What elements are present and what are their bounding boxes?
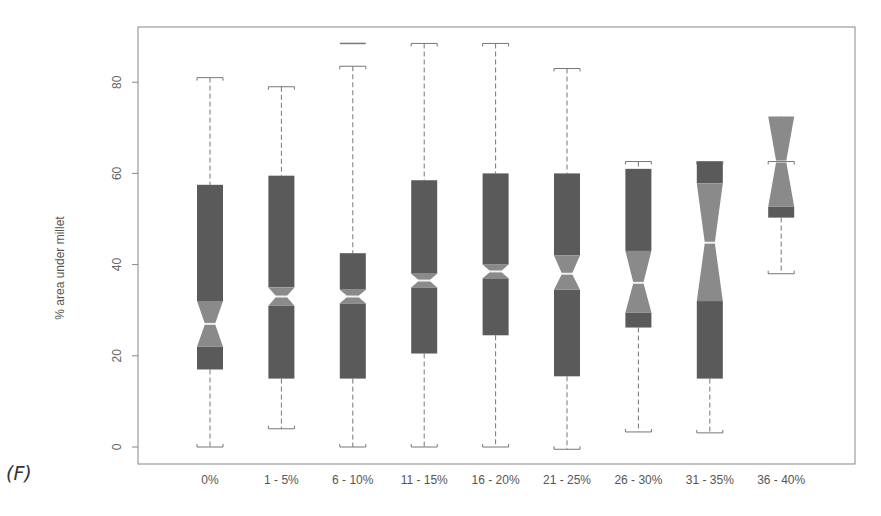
x-tick-label: 1 - 5% [264, 473, 299, 487]
x-tick-label: 16 - 20% [472, 473, 520, 487]
box-lower [268, 306, 294, 379]
y-tick-label: 60 [110, 166, 124, 180]
box-upper [411, 180, 437, 273]
box-lower [625, 312, 651, 327]
box-lower [768, 207, 794, 218]
box-notch [554, 255, 580, 289]
x-tick-label: 31 - 35% [686, 473, 734, 487]
box-lower [340, 303, 366, 378]
y-tick-label: 0 [110, 443, 124, 450]
box-lower [483, 278, 509, 335]
x-tick-label: 11 - 15% [401, 473, 448, 487]
box-lower [411, 287, 437, 353]
x-tick-label: 6 - 10% [332, 473, 374, 487]
box-lower [197, 347, 223, 370]
box-upper [625, 169, 651, 251]
x-tick-label: 26 - 30% [614, 473, 662, 487]
box-upper [697, 162, 723, 184]
box-upper [197, 185, 223, 301]
box-upper [268, 176, 294, 288]
box-notch [625, 251, 651, 313]
x-tick-label: 21 - 25% [543, 473, 591, 487]
y-tick-label: 80 [110, 75, 124, 89]
box-lower [697, 301, 723, 379]
box-lower [554, 290, 580, 377]
box-upper [483, 173, 509, 264]
x-tick-label: 0% [201, 473, 219, 487]
box-upper [554, 173, 580, 255]
y-tick-label: 40 [110, 258, 124, 272]
x-tick-label: 36 - 40% [757, 473, 805, 487]
box-upper [340, 253, 366, 289]
panel-label: (F) [6, 462, 32, 484]
y-axis-label: % area under millet [53, 216, 67, 319]
boxplot-chart: 0204060800%1 - 5%6 - 10%11 - 15%16 - 20%… [0, 0, 881, 516]
y-tick-label: 20 [110, 349, 124, 363]
